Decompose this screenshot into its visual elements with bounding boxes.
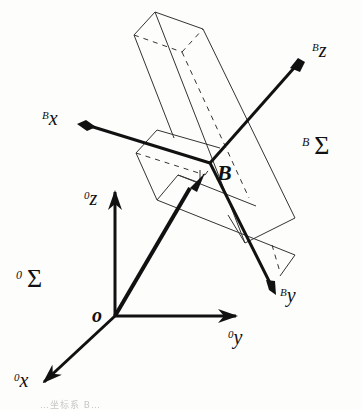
long-bar-box <box>134 12 295 243</box>
body-x-diamond-icon <box>77 120 96 131</box>
body-x-label: Bx <box>42 107 58 129</box>
body-y-label: By <box>280 284 296 307</box>
world-frame <box>44 173 236 382</box>
body-z-label: Bz <box>312 39 327 61</box>
position-vector-arrowhead <box>190 173 205 192</box>
body-y-diamond-icon <box>266 280 276 295</box>
figure-caption-partial: …坐标系 B… <box>40 398 360 410</box>
body-frame <box>90 68 294 283</box>
world-origin-label: o <box>92 304 102 326</box>
body-frame-label: BΣ <box>302 131 329 160</box>
frames-diagram: 0z 0y 0x o 0Σ Bx By Bz B BΣ <box>0 0 362 410</box>
short-bar-box <box>136 130 295 276</box>
world-x-axis <box>44 316 115 382</box>
position-vector-o-to-b <box>115 188 190 316</box>
body-z-axis <box>210 68 294 163</box>
world-y-label: 0y <box>228 326 243 349</box>
world-z-label: 0z <box>84 187 98 209</box>
body-origin-label: B <box>216 160 232 185</box>
world-frame-label: 0Σ <box>16 264 42 293</box>
world-x-label: 0x <box>14 369 29 391</box>
